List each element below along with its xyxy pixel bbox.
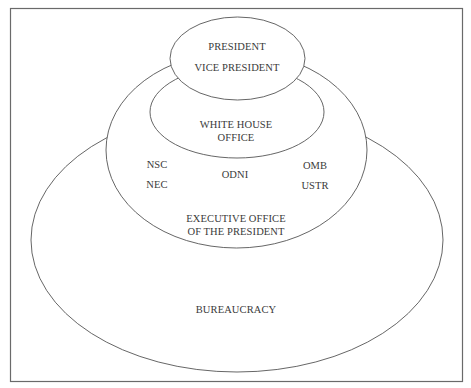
nsc-label: NSC (147, 159, 168, 170)
nec-label: NEC (146, 179, 167, 190)
president-ellipse (170, 17, 305, 100)
eop-label-line2: OF THE PRESIDENT (187, 226, 285, 237)
bureaucracy-label: BUREAUCRACY (196, 304, 277, 315)
odni-label: ODNI (222, 169, 249, 180)
ustr-label: USTR (301, 180, 328, 191)
vice-president-label: VICE PRESIDENT (194, 62, 280, 73)
president-label: PRESIDENT (208, 41, 266, 52)
eop-label-line1: EXECUTIVE OFFICE (186, 213, 285, 224)
white-house-label-line2: OFFICE (218, 132, 255, 143)
white-house-label-line1: WHITE HOUSE (200, 119, 273, 130)
diagram-canvas: PRESIDENT VICE PRESIDENT WHITE HOUSE OFF… (0, 0, 471, 388)
omb-label: OMB (303, 160, 327, 171)
